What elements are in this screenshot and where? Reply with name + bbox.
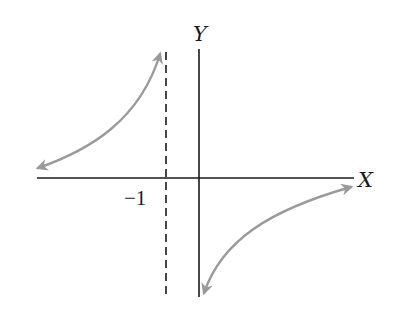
tick-label-neg1: −1 [124,186,146,210]
y-axis-label: Y [193,22,209,46]
curve-right-branch [204,187,351,293]
curve-left-branch [38,54,160,168]
x-axis-label: X [356,168,374,192]
hyperbola-graph: Y X −1 [0,0,394,314]
